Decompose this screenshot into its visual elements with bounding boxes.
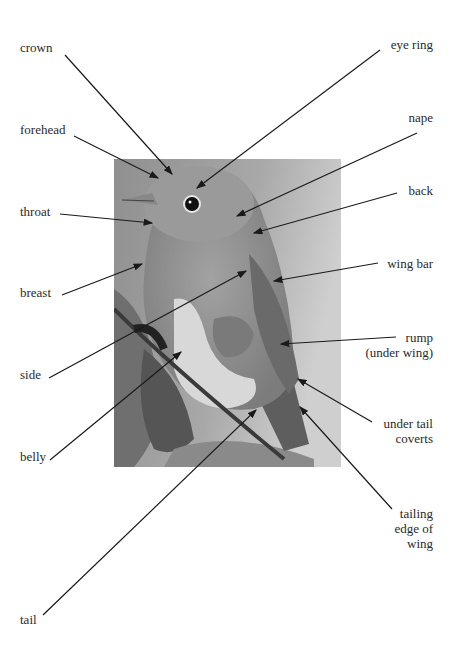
arrow-side xyxy=(49,271,246,378)
arrow-throat xyxy=(60,214,152,223)
arrow-eye-ring xyxy=(197,50,380,188)
arrow-nape xyxy=(237,133,417,216)
label-eye-ring: eye ring xyxy=(391,37,433,52)
label-wing-bar: wing bar xyxy=(387,256,433,271)
label-utc-line1: under tail xyxy=(384,416,433,431)
label-side: side xyxy=(20,367,41,382)
arrow-forehead xyxy=(74,136,158,178)
label-rump: rump (under wing) xyxy=(365,330,433,360)
arrow-breast xyxy=(62,264,142,295)
leader-lines xyxy=(0,0,459,657)
label-rump-line2: (under wing) xyxy=(365,345,433,360)
arrow-back xyxy=(254,193,397,233)
label-trailing-edge: tailing edge of wing xyxy=(394,506,433,551)
arrow-tail xyxy=(43,410,256,615)
arrow-under-tail-coverts xyxy=(298,379,372,422)
label-rump-line1: rump xyxy=(365,330,433,345)
label-te-line3: wing xyxy=(394,536,433,551)
label-under-tail-coverts: under tail coverts xyxy=(384,416,433,446)
bird-anatomy-diagram: crown forehead throat breast side belly … xyxy=(0,0,459,657)
arrow-trailing-edge xyxy=(300,407,392,509)
label-belly: belly xyxy=(20,449,46,464)
label-te-line1: tailing xyxy=(394,506,433,521)
arrow-belly xyxy=(50,352,181,460)
label-throat: throat xyxy=(20,204,50,219)
label-back: back xyxy=(408,183,433,198)
label-nape: nape xyxy=(408,110,433,125)
label-tail: tail xyxy=(20,612,37,627)
arrow-wing-bar xyxy=(274,263,378,281)
label-te-line2: edge of xyxy=(394,521,433,536)
label-forehead: forehead xyxy=(20,122,65,137)
arrow-crown xyxy=(65,55,172,174)
label-breast: breast xyxy=(20,285,51,300)
label-utc-line2: coverts xyxy=(384,431,433,446)
label-crown: crown xyxy=(20,40,53,55)
